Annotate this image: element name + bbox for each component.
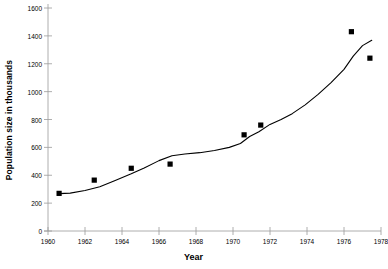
data-point-marker [367,56,372,61]
data-point-marker [258,122,263,127]
data-point-marker [168,162,173,167]
data-point-marker [129,166,134,171]
data-point-marker [242,132,247,137]
data-point-marker [92,178,97,183]
data-point-marker [349,29,354,34]
trend-line [59,40,372,193]
data-point-marker [57,191,62,196]
x-axis-title: Year [0,252,387,262]
